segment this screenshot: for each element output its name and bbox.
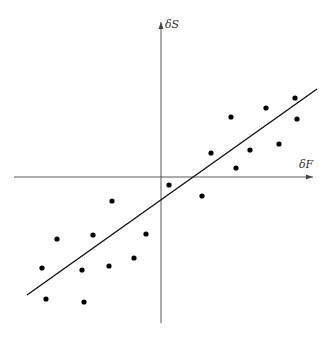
data-point: [81, 299, 86, 304]
data-point: [294, 116, 299, 121]
data-point: [208, 150, 213, 155]
data-points: [39, 95, 299, 304]
data-point: [39, 265, 44, 270]
data-point: [109, 198, 114, 203]
data-point: [247, 147, 252, 152]
x-axis-label: δF: [299, 159, 313, 170]
data-point: [79, 267, 84, 272]
data-point: [228, 114, 233, 119]
data-point: [43, 296, 48, 301]
data-point: [54, 236, 59, 241]
y-axis-label: δS: [165, 19, 179, 30]
data-point: [143, 231, 148, 236]
data-point: [263, 105, 268, 110]
data-point: [90, 232, 95, 237]
data-point: [292, 95, 297, 100]
data-point: [106, 263, 111, 268]
data-point: [276, 141, 281, 146]
regression-line: [27, 89, 317, 295]
data-point: [166, 182, 171, 187]
data-point: [199, 193, 204, 198]
scatter-chart: [0, 0, 334, 340]
data-point: [233, 165, 238, 170]
data-point: [131, 255, 136, 260]
